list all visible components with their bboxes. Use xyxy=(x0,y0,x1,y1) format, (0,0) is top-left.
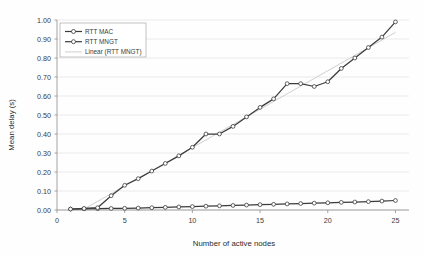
data-point-marker xyxy=(231,204,235,208)
data-point-marker xyxy=(366,46,370,50)
y-axis-tick-label: 0.50 xyxy=(37,111,51,120)
x-axis-tick-label: 20 xyxy=(324,216,332,225)
data-point-marker xyxy=(177,205,181,209)
y-axis-tick-label: 0.60 xyxy=(37,92,51,101)
data-point-marker xyxy=(353,56,357,60)
data-point-marker xyxy=(272,97,276,101)
data-point-marker xyxy=(272,202,276,206)
data-point-marker xyxy=(380,35,384,39)
data-point-marker xyxy=(258,106,262,110)
x-axis-tick-label: 5 xyxy=(123,216,127,225)
data-point-marker xyxy=(96,206,100,210)
data-point-marker xyxy=(109,194,113,198)
data-point-marker xyxy=(163,162,167,166)
y-axis-tick-labels: 0.000.100.200.300.400.500.600.700.800.90… xyxy=(37,16,51,215)
data-point-marker xyxy=(326,201,330,205)
data-point-marker xyxy=(123,206,127,210)
legend-item-label: RTT MAC xyxy=(85,28,114,35)
data-point-marker xyxy=(150,206,154,210)
data-point-marker xyxy=(285,82,289,86)
y-axis-tick-label: 0.10 xyxy=(37,187,51,196)
y-axis-title: Mean delay (s) xyxy=(7,99,16,151)
y-axis-tick-label: 0.70 xyxy=(37,73,51,82)
x-axis-title: Number of active nodes xyxy=(193,239,275,248)
data-point-marker xyxy=(109,207,113,211)
data-point-marker xyxy=(204,132,208,136)
data-point-marker xyxy=(339,201,343,205)
y-axis-tick-label: 0.30 xyxy=(37,149,51,158)
data-point-marker xyxy=(150,169,154,173)
data-point-marker xyxy=(177,154,181,158)
data-point-marker xyxy=(190,205,194,209)
y-axis-tick-label: 0.80 xyxy=(37,54,51,63)
data-point-marker xyxy=(299,82,303,86)
data-point-marker xyxy=(69,207,73,211)
data-point-marker xyxy=(394,199,398,203)
y-axis-tick-label: 1.00 xyxy=(37,16,51,25)
data-point-marker xyxy=(312,201,316,205)
data-point-marker xyxy=(218,132,222,136)
data-point-marker xyxy=(326,80,330,84)
data-point-marker xyxy=(82,207,86,211)
y-axis-tick-label: 0.40 xyxy=(37,130,51,139)
legend-item-label: Linear (RTT MNGT) xyxy=(85,48,142,56)
data-point-marker xyxy=(136,206,140,210)
x-axis-tick-labels: 0510152025 xyxy=(55,216,399,225)
data-point-marker xyxy=(190,145,194,149)
data-point-marker xyxy=(245,115,249,119)
y-axis-tick-label: 0.90 xyxy=(37,35,51,44)
legend-marker-icon xyxy=(72,40,76,44)
y-axis-tick-label: 0.20 xyxy=(37,168,51,177)
legend-marker-icon xyxy=(72,30,76,34)
data-point-marker xyxy=(353,200,357,204)
data-point-marker xyxy=(312,85,316,89)
data-point-marker xyxy=(299,202,303,206)
chart-legend: RTT MACRTT MNGTLinear (RTT MNGT) xyxy=(60,23,146,57)
line-chart: 0.000.100.200.300.400.500.600.700.800.90… xyxy=(0,0,423,256)
data-point-marker xyxy=(285,202,289,206)
data-point-marker xyxy=(258,203,262,207)
data-point-marker xyxy=(163,205,167,209)
data-point-marker xyxy=(123,183,127,187)
data-point-marker xyxy=(245,203,249,207)
data-point-marker xyxy=(136,177,140,181)
data-point-marker xyxy=(394,20,398,24)
chart-container: 0.000.100.200.300.400.500.600.700.800.90… xyxy=(0,0,423,256)
data-point-marker xyxy=(366,200,370,204)
x-axis-tick-label: 10 xyxy=(188,216,196,225)
x-axis-tick-label: 25 xyxy=(391,216,399,225)
x-axis-tick-label: 0 xyxy=(55,216,59,225)
legend-item-label: RTT MNGT xyxy=(85,38,118,45)
data-point-marker xyxy=(231,125,235,129)
data-point-marker xyxy=(204,204,208,208)
data-point-marker xyxy=(380,199,384,203)
data-point-marker xyxy=(218,204,222,208)
x-axis-tick-label: 15 xyxy=(256,216,264,225)
y-axis-tick-label: 0.00 xyxy=(37,206,51,215)
data-point-marker xyxy=(339,67,343,71)
